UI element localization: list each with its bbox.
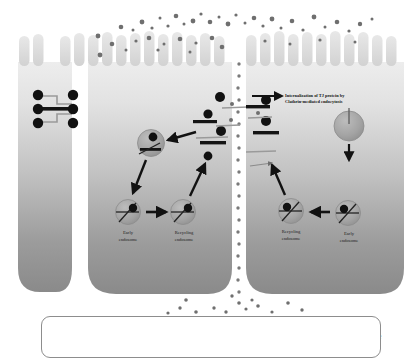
tricellulin-line <box>196 137 228 138</box>
zo1-dot <box>204 152 213 161</box>
zo1-dot <box>68 104 78 114</box>
paracellular-fd4-column <box>236 62 240 293</box>
claudin4-bar <box>253 131 279 134</box>
zo1-dot <box>33 90 43 100</box>
occludin-line <box>248 117 272 118</box>
zo1-dot <box>33 118 43 128</box>
pla-dot <box>229 118 233 122</box>
occludin-line <box>222 107 248 108</box>
pla-dot <box>256 111 260 115</box>
zo1-dot <box>216 126 226 136</box>
basal-tracer-dots <box>166 294 303 314</box>
legend-box <box>41 316 381 358</box>
tight-junction-left <box>33 90 78 128</box>
annotation-line-2: Clathrin-mediated endocytosis <box>285 99 343 104</box>
zo1-dot <box>203 109 212 118</box>
early-endosome-right-label-1: Early <box>344 231 355 236</box>
recycling-endosome-right-label-2: endosome <box>282 236 301 241</box>
early-endosome-left-label-1: Early <box>123 230 134 235</box>
claudin4-bar <box>193 120 217 123</box>
zo1-dot <box>215 92 225 102</box>
annotation-line-1: Internalization of TJ protein by <box>285 93 345 98</box>
zo1-dot <box>68 90 78 100</box>
figure-canvas: Internalization of TJ protein by Clathri… <box>0 0 419 362</box>
caco2-cell-left <box>88 62 232 294</box>
recycling-endosome-left-label-1: Recycling <box>175 230 194 235</box>
early-endosome-right-label-2: endosome <box>340 238 359 243</box>
claudin4-bar <box>246 105 270 108</box>
annotation-internalization: Internalization of TJ protein by Clathri… <box>285 93 345 104</box>
zo1-dot <box>33 104 43 114</box>
early-endosome-left-label-2: endosome <box>119 237 138 242</box>
microvilli <box>19 31 397 66</box>
occludin-line <box>216 125 240 126</box>
claudin4-bar <box>200 141 226 144</box>
zo1-dot <box>68 118 78 128</box>
diagram-svg: Internalization of TJ protein by Clathri… <box>0 0 419 362</box>
recycling-endosome-left-label-2: endosome <box>175 237 194 242</box>
recycling-endosome-right-label-1: Recycling <box>282 229 301 234</box>
pla-dot <box>230 102 234 106</box>
occludin-line <box>246 151 276 152</box>
